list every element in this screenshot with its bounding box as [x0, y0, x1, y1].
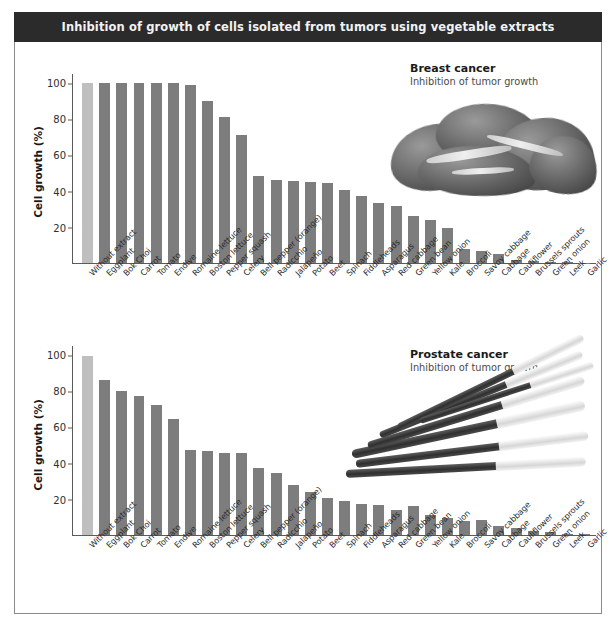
bar-breast-eggplant — [99, 83, 110, 263]
x-label-slot: Brussels sprouts — [524, 265, 541, 345]
annotation-title-breast: Breast cancer — [410, 62, 538, 75]
bar-slot — [336, 74, 353, 263]
bar-slot — [353, 346, 370, 535]
bar-slot — [473, 74, 490, 263]
bar-slot — [79, 74, 96, 263]
x-label-slot: Asparagus — [370, 265, 387, 345]
annotation-subtitle-breast: Inhibition of tumor growth — [410, 76, 538, 87]
x-label-slot: Without extract — [78, 265, 95, 345]
figure-title: Inhibition of growth of cells isolated f… — [62, 20, 555, 34]
bar-breast-beet — [322, 183, 333, 263]
bar-prostate-endive — [168, 419, 179, 535]
x-label-slot: Garlic — [576, 537, 593, 617]
x-label-slot: Kale — [439, 265, 456, 345]
x-label-slot: Radicchio — [267, 537, 284, 617]
chart-panel-breast-cancer: 20406080100 Cell growth (%) Without extr… — [14, 46, 602, 334]
x-label-slot: Without extract — [78, 537, 95, 617]
bar-slot — [405, 346, 422, 535]
bar-slot — [182, 346, 199, 535]
bar-slot — [199, 346, 216, 535]
bar-slot — [490, 74, 507, 263]
bar-breast-without-extract — [82, 83, 93, 263]
x-axis-labels-breast: Without extractEggplantBok ChoiCarrotTom… — [72, 265, 596, 345]
bar-breast-tomato — [151, 83, 162, 263]
figure-title-banner: Inhibition of growth of cells isolated f… — [14, 12, 602, 42]
bar-prostate-romaine-lettuce — [185, 450, 196, 536]
x-label-slot: Green bean — [404, 537, 421, 617]
bar-slot — [456, 346, 473, 535]
x-label-slot: Eggplant — [95, 265, 112, 345]
x-label-slot: Cabbage — [490, 265, 507, 345]
bar-slot — [490, 346, 507, 535]
x-label-slot: Potato — [301, 537, 318, 617]
bar-breast-spinach — [339, 190, 350, 263]
x-label-slot: Beet — [318, 265, 335, 345]
x-label-slot: Asparagus — [370, 537, 387, 617]
x-label-slot: Bell pepper (orange) — [250, 537, 267, 617]
bar-slot — [165, 346, 182, 535]
x-label-slot: Carrot — [130, 265, 147, 345]
x-label-slot: Green onion — [542, 537, 559, 617]
x-label-slot: Garlic — [576, 265, 593, 345]
x-label-slot: Endive — [164, 537, 181, 617]
x-label-slot: Savoy cabbage — [473, 265, 490, 345]
x-label-slot: Savoy cabbage — [473, 537, 490, 617]
x-label-slot: Bell pepper (orange) — [250, 265, 267, 345]
x-label-slot: Romaine lettuce — [181, 537, 198, 617]
bar-slot — [353, 74, 370, 263]
x-label-slot: Leek — [559, 265, 576, 345]
bar-breast-romaine-lettuce — [185, 85, 196, 263]
bar-slot — [542, 346, 559, 535]
bar-slot — [79, 346, 96, 535]
x-label-slot: Broccoli — [456, 265, 473, 345]
x-label-slot: Potato — [301, 265, 318, 345]
bar-slot — [199, 74, 216, 263]
x-label-slot: Cauliflower — [507, 537, 524, 617]
x-label-slot: Broccoli — [456, 537, 473, 617]
bar-prostate-carrot — [134, 396, 145, 536]
x-label-slot: Jalapeño — [284, 537, 301, 617]
bar-breast-boston-lettuce — [202, 101, 213, 263]
x-label-slot: Red cabbage — [387, 537, 404, 617]
x-label-slot: Bok Choi — [112, 265, 129, 345]
x-label-slot: Green onion — [542, 265, 559, 345]
annotation-title-prostate: Prostate cancer — [410, 348, 538, 361]
bar-slot — [439, 74, 456, 263]
x-label-slot: Pepper squash — [215, 537, 232, 617]
annotation-prostate-cancer: Prostate cancer Inhibition of tumor grow… — [410, 348, 538, 373]
bar-slot — [319, 74, 336, 263]
bar-slot — [473, 346, 490, 535]
x-label-slot: Eggplant — [95, 537, 112, 617]
x-label-slot: Pepper squash — [215, 265, 232, 345]
bar-slot — [336, 346, 353, 535]
bar-slot — [405, 74, 422, 263]
bar-slot — [148, 74, 165, 263]
x-label-slot: Yellow onion — [421, 265, 438, 345]
bar-slot — [370, 346, 387, 535]
y-tick-breast-100: 100 — [14, 78, 72, 89]
x-label-slot: Celery — [233, 537, 250, 617]
bar-slot — [388, 74, 405, 263]
bar-slot — [370, 74, 387, 263]
x-label-slot: Celery — [233, 265, 250, 345]
x-label-slot: Fiddleheads — [353, 265, 370, 345]
x-label-slot: Radicchio — [267, 265, 284, 345]
bar-slot — [96, 346, 113, 535]
bar-slot — [456, 74, 473, 263]
bar-slot — [148, 346, 165, 535]
x-label-slot: Red cabbage — [387, 265, 404, 345]
x-label-slot: Bok Choi — [112, 537, 129, 617]
x-label-slot: Leek — [559, 537, 576, 617]
x-label-slot: Carrot — [130, 537, 147, 617]
chart-panel-prostate-cancer: 20406080100 Cell growth (%) Without extr… — [14, 334, 602, 614]
x-label-slot: Spinach — [336, 265, 353, 345]
bar-slot — [388, 346, 405, 535]
y-tick-prostate-100: 100 — [14, 350, 72, 361]
x-label-slot: Jalapeño — [284, 265, 301, 345]
x-label-slot: Brussels sprouts — [524, 537, 541, 617]
x-label-slot: Cabbage — [490, 537, 507, 617]
x-label-slot: Tomato — [147, 537, 164, 617]
bar-prostate-tomato — [151, 405, 162, 536]
x-label-slot: Yellow onion — [421, 537, 438, 617]
bar-slot — [439, 346, 456, 535]
